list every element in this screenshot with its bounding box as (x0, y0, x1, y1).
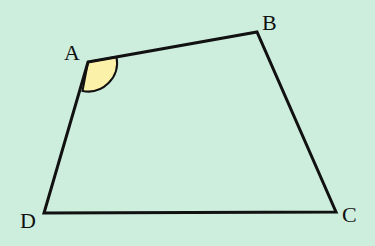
quadrilateral-diagram: A B C D (0, 0, 375, 246)
vertex-label-a: A (64, 40, 80, 65)
vertex-label-c: C (342, 202, 357, 227)
vertex-label-d: D (20, 208, 36, 233)
vertex-label-b: B (262, 10, 277, 35)
background (0, 0, 375, 246)
